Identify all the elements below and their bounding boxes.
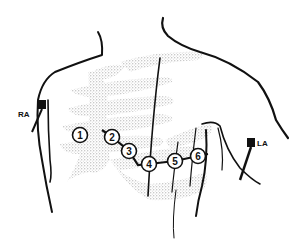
electrode-V5[interactable]: 5 <box>168 154 183 169</box>
electrode-V6[interactable]: 6 <box>191 149 206 164</box>
electrode-V2[interactable]: 2 <box>105 130 120 145</box>
electrode-RA[interactable]: RA <box>18 100 46 132</box>
label-V4: 4 <box>146 159 152 170</box>
label-V5: 5 <box>172 156 178 167</box>
label-V1: 1 <box>77 130 83 141</box>
electrode-LA[interactable]: LA <box>240 138 268 180</box>
label-V3: 3 <box>126 146 132 157</box>
electrode-V4[interactable]: 4 <box>142 157 157 172</box>
label-V6: 6 <box>195 151 201 162</box>
label-RA: RA <box>18 110 30 119</box>
label-V2: 2 <box>109 132 115 143</box>
ecg-placement-diagram: RA LA 1 2 3 4 5 6 <box>0 0 307 252</box>
electrode-V1[interactable]: 1 <box>73 128 88 143</box>
rib-cage <box>60 52 212 201</box>
label-LA: LA <box>257 139 268 148</box>
electrode-V3[interactable]: 3 <box>122 144 137 159</box>
